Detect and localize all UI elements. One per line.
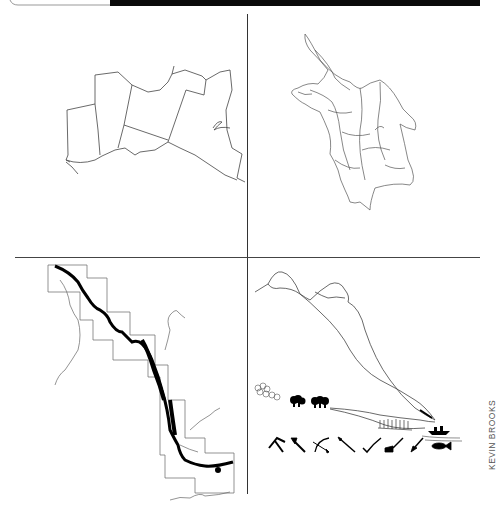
- boat-silhouette: [428, 426, 450, 435]
- tab-outline: [0, 0, 112, 8]
- watershed-map: [280, 20, 480, 250]
- sickle-icon: [363, 438, 381, 452]
- shovel-icon: [411, 438, 423, 452]
- axe-icon: [291, 438, 305, 452]
- fish-icon: [432, 442, 451, 450]
- landscape-cross-section: [250, 260, 480, 480]
- illustrator-credit: KEVIN BROOKS: [487, 400, 497, 470]
- river-valley-map: [30, 260, 250, 510]
- spear-icon: [338, 437, 355, 452]
- plough-icon: [385, 438, 403, 452]
- header-bar: [110, 0, 480, 6]
- pickaxe-icon: [269, 438, 285, 452]
- bush-cluster: [255, 383, 280, 400]
- regional-boundary-map: [40, 30, 250, 210]
- bow-and-arrow-icon: [313, 438, 329, 453]
- horizontal-divider: [15, 257, 480, 258]
- tree-silhouettes: [290, 395, 329, 408]
